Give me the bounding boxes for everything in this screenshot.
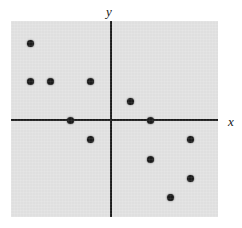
data-point xyxy=(67,117,74,124)
data-point xyxy=(127,98,134,105)
y-axis-label: y xyxy=(106,5,112,18)
y-axis-line xyxy=(110,21,112,217)
plot-area xyxy=(11,21,218,217)
data-point xyxy=(147,156,154,163)
data-point xyxy=(147,117,154,124)
data-point xyxy=(187,136,194,143)
x-axis-line xyxy=(11,119,218,121)
data-point xyxy=(187,175,194,182)
data-point xyxy=(87,136,94,143)
data-point xyxy=(27,40,34,47)
data-point xyxy=(47,78,54,85)
data-point xyxy=(27,78,34,85)
data-point xyxy=(167,194,174,201)
data-point xyxy=(87,78,94,85)
scatter-plot-figure: y x xyxy=(0,0,242,228)
x-axis-label: x xyxy=(228,115,234,128)
